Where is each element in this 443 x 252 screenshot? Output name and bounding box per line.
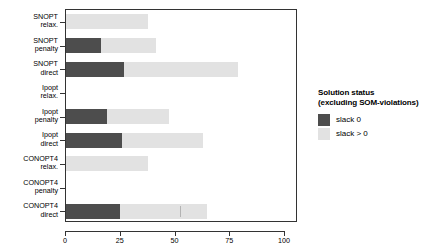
legend-swatch [318,128,330,140]
y-axis-label-line2: penalty [0,187,58,196]
x-axis-label: 100 [278,237,290,245]
y-axis-label-line2: relax. [0,21,58,30]
y-tick [60,211,66,212]
y-axis-label: Ipoptdirect [0,131,58,148]
inner-annotation-tick [180,206,181,217]
bar-segment [66,133,122,148]
bar-row [66,62,238,77]
bar-segment [66,156,148,171]
legend-label: slack 0 [336,114,361,126]
y-tick [60,164,66,165]
y-axis-label: SNOPTdirect [0,60,58,77]
y-tick [60,93,66,94]
bar-row [66,156,148,171]
y-tick [60,117,66,118]
y-axis-label: Ipoptpenalty [0,108,58,125]
bar-segment [122,133,203,148]
x-axis: 0255075100 [65,222,297,244]
x-axis-label: 25 [116,237,124,245]
y-tick [60,69,66,70]
x-axis-label: 50 [171,237,179,245]
legend-title-line1: Solution status [318,88,440,98]
y-axis-label-line2: direct [0,140,58,149]
y-tick [60,188,66,189]
y-axis-label: Ipoptrelax. [0,84,58,101]
x-axis-label: 75 [225,237,233,245]
bar-segment [66,62,124,77]
bar-segment [120,204,208,219]
legend-entries: slack 0slack > 0 [318,113,440,140]
bar-segment [66,109,107,124]
bar-segment [107,109,169,124]
bar-segment [101,38,156,53]
y-axis-label-line2: penalty [0,45,58,54]
y-axis-label-line2: relax. [0,163,58,172]
bar-segment [66,38,101,53]
legend-swatch [318,114,330,126]
y-axis-label: CONOPT4relax. [0,155,58,172]
y-axis-label-line2: direct [0,69,58,78]
bar-row [66,14,148,29]
legend: Solution status (excluding SOM-violation… [318,88,440,141]
plot-panel: SNOPTrelax.SNOPTpenaltySNOPTdirectIpoptr… [65,9,297,222]
bar-segment [66,14,148,29]
y-tick [60,140,66,141]
y-axis-label: SNOPTrelax. [0,13,58,30]
y-tick [60,46,66,47]
y-tick [60,22,66,23]
x-axis-label: 0 [63,237,67,245]
y-axis-label-line2: penalty [0,116,58,125]
y-axis-label: CONOPT4direct [0,202,58,219]
bar-row [66,133,203,148]
bar-segment [124,62,238,77]
bar-segment [66,204,120,219]
bars-layer [66,10,296,221]
bar-row [66,109,169,124]
legend-label: slack > 0 [336,128,368,140]
y-axis-label-line2: direct [0,211,58,220]
legend-entry: slack 0 [318,113,440,126]
legend-title-line2: (excluding SOM-violations) [318,98,440,108]
y-axis-label: SNOPTpenalty [0,37,58,54]
y-axis-label-line2: relax. [0,92,58,101]
bar-row [66,204,207,219]
y-axis-label: CONOPT4penalty [0,179,58,196]
bar-chart-figure: SNOPTrelax.SNOPTpenaltySNOPTdirectIpoptr… [0,0,443,252]
legend-entry: slack > 0 [318,127,440,140]
bar-row [66,38,156,53]
